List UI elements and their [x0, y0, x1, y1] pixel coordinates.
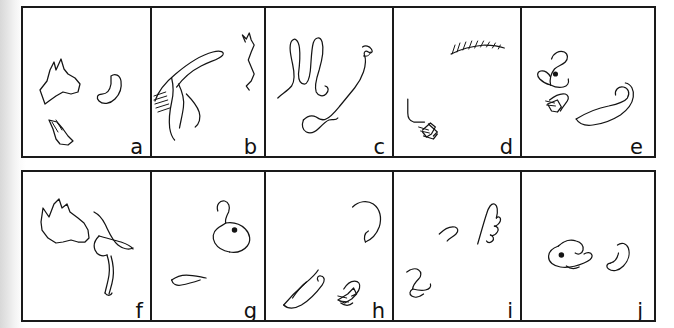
- panel-label-i: i: [507, 301, 513, 320]
- panel-label-f: f: [136, 301, 143, 320]
- panel-e[interactable]: e: [520, 8, 650, 156]
- figure-container: a b c: [0, 0, 674, 328]
- sketch-d: [394, 8, 520, 156]
- panel-label-h: h: [372, 301, 385, 320]
- panel-label-g: g: [244, 301, 257, 320]
- panel-h[interactable]: h: [264, 172, 392, 320]
- sketch-g: [152, 172, 264, 320]
- panel-j[interactable]: j: [520, 172, 650, 320]
- sketch-f: [23, 172, 150, 320]
- panel-label-a: a: [130, 137, 143, 156]
- panel-row-top: a b c: [21, 6, 656, 158]
- sketch-a: [23, 8, 150, 156]
- panel-row-bottom: f g: [21, 170, 656, 322]
- panel-c[interactable]: c: [264, 8, 392, 156]
- panel-label-d: d: [500, 137, 513, 156]
- sketch-c: [266, 8, 392, 156]
- panel-label-j: j: [637, 301, 643, 320]
- panel-label-e: e: [630, 137, 643, 156]
- panel-d[interactable]: d: [392, 8, 520, 156]
- panel-f[interactable]: f: [23, 172, 150, 320]
- panel-label-c: c: [373, 137, 385, 156]
- panel-label-b: b: [244, 137, 257, 156]
- panel-b[interactable]: b: [150, 8, 264, 156]
- panel-a[interactable]: a: [23, 8, 150, 156]
- sketch-j: [522, 172, 650, 320]
- sketch-i: [394, 172, 520, 320]
- sketch-e: [522, 8, 650, 156]
- panel-g[interactable]: g: [150, 172, 264, 320]
- sketch-h: [266, 172, 392, 320]
- panel-i[interactable]: i: [392, 172, 520, 320]
- sketch-b: [152, 8, 264, 156]
